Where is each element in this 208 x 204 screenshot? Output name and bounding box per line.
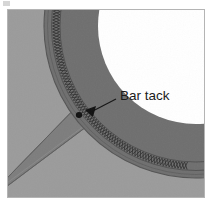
bar-tack-callout-label: Bar tack <box>120 88 170 103</box>
bar-tack-illustration: Bar tack <box>0 0 208 204</box>
scan-grain-overlay <box>0 0 208 204</box>
scan-artifact-mark <box>3 1 10 6</box>
figure-container: Bar tack <box>0 0 208 204</box>
